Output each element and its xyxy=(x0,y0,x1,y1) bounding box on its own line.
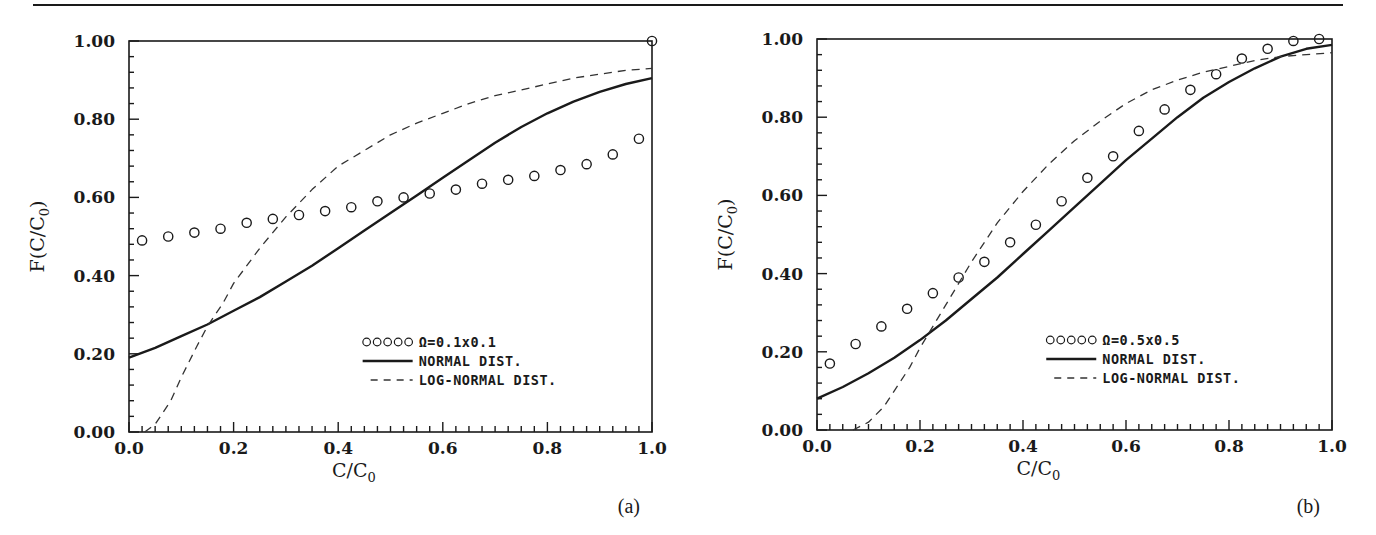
x-tick-label: 0.6 xyxy=(1111,436,1141,456)
data-point-marker xyxy=(1031,220,1040,229)
legend-marker-icon xyxy=(373,338,381,346)
data-point-marker xyxy=(137,236,146,245)
data-point-marker xyxy=(851,339,860,348)
data-point-marker xyxy=(190,228,199,237)
data-point-marker xyxy=(634,134,643,143)
plot-frame xyxy=(817,39,1332,430)
data-point-marker xyxy=(1212,70,1221,79)
legend-marker-icon xyxy=(1067,336,1075,344)
y-tick-label: 0.20 xyxy=(762,342,804,362)
x-tick-label: 0.4 xyxy=(1008,436,1038,456)
y-tick-label: 0.00 xyxy=(762,420,804,440)
data-point-marker xyxy=(242,218,251,227)
legend-label: NORMAL DIST. xyxy=(419,353,523,369)
data-point-marker xyxy=(877,322,886,331)
data-point-marker xyxy=(268,214,277,223)
data-point-marker xyxy=(1186,85,1195,94)
legend-marker-icon xyxy=(405,338,413,346)
x-tick-label: 0.2 xyxy=(905,436,935,456)
y-tick-label: 0.60 xyxy=(762,185,804,205)
legend-marker-icon xyxy=(1088,336,1096,344)
y-tick-label: 0.60 xyxy=(74,187,116,207)
data-point-marker xyxy=(425,189,434,198)
x-axis-title: C/C0 xyxy=(332,459,376,485)
data-point-marker xyxy=(582,160,591,169)
data-point-marker xyxy=(1057,197,1066,206)
panel-label: (a) xyxy=(618,495,640,518)
legend-marker-icon xyxy=(394,338,402,346)
x-tick-label: 0.0 xyxy=(802,436,832,456)
panel-label: (b) xyxy=(1297,495,1320,518)
legend-marker-icon xyxy=(1046,336,1054,344)
chart-panel-a: 0.000.200.400.600.801.000.00.20.40.60.81… xyxy=(26,31,667,518)
legend-label: LOG-NORMAL DIST. xyxy=(1102,370,1240,386)
data-point-marker xyxy=(530,171,539,180)
data-point-marker xyxy=(504,175,513,184)
y-tick-label: 1.00 xyxy=(762,29,804,49)
normal-curve xyxy=(129,78,652,358)
figure-canvas: 0.000.200.400.600.801.000.00.20.40.60.81… xyxy=(0,0,1376,535)
data-point-marker xyxy=(556,165,565,174)
data-point-marker xyxy=(825,359,834,368)
x-tick-label: 1.0 xyxy=(1317,436,1347,456)
x-tick-label: 0.4 xyxy=(323,438,353,458)
legend-label: NORMAL DIST. xyxy=(1102,351,1206,367)
data-point-marker xyxy=(954,273,963,282)
data-point-marker xyxy=(451,185,460,194)
data-point-marker xyxy=(1134,126,1143,135)
data-point-marker xyxy=(347,203,356,212)
data-point-marker xyxy=(477,179,486,188)
y-tick-label: 0.20 xyxy=(74,344,116,364)
data-markers xyxy=(137,36,656,245)
x-tick-label: 1.0 xyxy=(637,438,667,458)
data-point-marker xyxy=(373,197,382,206)
log-normal-curve xyxy=(145,68,652,432)
legend-marker-icon xyxy=(384,338,392,346)
y-tick-label: 0.40 xyxy=(762,264,804,284)
data-point-marker xyxy=(1083,173,1092,182)
log-normal-curve xyxy=(853,53,1332,430)
data-markers xyxy=(825,34,1323,368)
y-axis-title: F(C/C0) xyxy=(714,199,740,271)
chart-panel-b: 0.000.200.400.600.801.000.00.20.40.60.81… xyxy=(714,29,1347,518)
x-tick-label: 0.8 xyxy=(533,438,563,458)
x-tick-label: 0.8 xyxy=(1214,436,1244,456)
data-point-marker xyxy=(164,232,173,241)
data-point-marker xyxy=(608,150,617,159)
x-axis-title: C/C0 xyxy=(1017,457,1061,483)
data-point-marker xyxy=(1109,152,1118,161)
x-tick-label: 0.2 xyxy=(219,438,249,458)
legend: Ω=0.1x0.1NORMAL DIST.LOG-NORMAL DIST. xyxy=(363,334,557,388)
data-point-marker xyxy=(903,304,912,313)
y-tick-label: 1.00 xyxy=(74,31,116,51)
legend: Ω=0.5x0.5NORMAL DIST.LOG-NORMAL DIST. xyxy=(1046,332,1240,386)
legend-marker-icon xyxy=(1078,336,1086,344)
data-point-marker xyxy=(1263,44,1272,53)
data-point-marker xyxy=(980,257,989,266)
y-tick-label: 0.80 xyxy=(762,107,804,127)
data-point-marker xyxy=(1237,54,1246,63)
y-tick-label: 0.00 xyxy=(74,422,116,442)
data-point-marker xyxy=(321,206,330,215)
figure: 0.000.200.400.600.801.000.00.20.40.60.81… xyxy=(0,0,1376,535)
data-point-marker xyxy=(294,210,303,219)
data-point-marker xyxy=(1006,238,1015,247)
x-tick-label: 0.0 xyxy=(114,438,144,458)
y-tick-label: 0.40 xyxy=(74,266,116,286)
data-point-marker xyxy=(928,289,937,298)
data-point-marker xyxy=(216,224,225,233)
legend-label: Ω=0.1x0.1 xyxy=(419,334,497,350)
legend-label: Ω=0.5x0.5 xyxy=(1102,332,1180,348)
y-tick-label: 0.80 xyxy=(74,109,116,129)
data-point-marker xyxy=(1160,105,1169,114)
y-axis-title: F(C/C0) xyxy=(26,201,52,273)
x-tick-label: 0.6 xyxy=(428,438,458,458)
data-point-marker xyxy=(1289,36,1298,45)
legend-marker-icon xyxy=(1057,336,1065,344)
legend-marker-icon xyxy=(363,338,371,346)
normal-curve xyxy=(817,45,1332,399)
legend-label: LOG-NORMAL DIST. xyxy=(419,372,557,388)
plot-frame xyxy=(129,41,652,432)
